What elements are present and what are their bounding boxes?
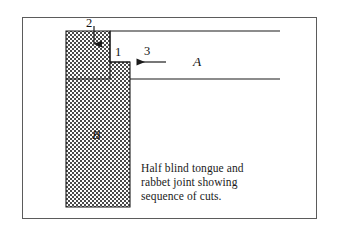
cut-1-label: 1 <box>115 45 121 60</box>
caption-line-2: rabbet joint showing <box>141 175 291 189</box>
board-b-label: B <box>92 127 100 143</box>
caption-line-3: sequence of cuts. <box>141 189 291 203</box>
board-a-label: A <box>193 54 201 70</box>
figure-caption: Half blind tongue and rabbet joint showi… <box>141 161 291 204</box>
figure-page: 2 1 3 A B Half blind tongue and rabbet j… <box>0 0 342 237</box>
cut-2-label: 2 <box>86 16 92 31</box>
cut-3-label: 3 <box>144 44 150 59</box>
caption-line-1: Half blind tongue and <box>141 161 291 175</box>
